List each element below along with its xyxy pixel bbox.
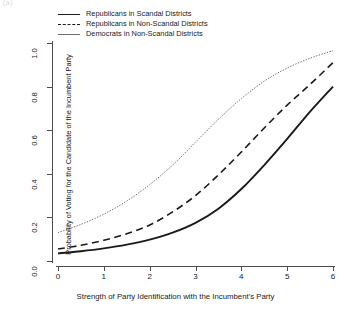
figure-panel: (a) Republicans in Scandal Districts Rep… [0, 0, 351, 317]
x-axis-tick-label: 6 [325, 272, 341, 281]
x-axis-tick [241, 266, 242, 271]
y-axis-tick [47, 174, 52, 175]
y-axis-tick-label: 1.0 [30, 43, 39, 65]
y-axis-tick [47, 217, 52, 218]
x-axis-title: Strength of Party Identification with th… [0, 292, 351, 301]
x-axis-tick [104, 266, 105, 271]
y-axis-tick-label: 0.6 [30, 130, 39, 152]
y-axis-tick-label: 0.4 [30, 173, 39, 195]
x-axis-tick-label: 3 [188, 272, 204, 281]
y-axis-tick [47, 130, 52, 131]
y-axis-tick-label: 0.0 [30, 261, 39, 283]
legend-item: Democrats in Non-Scandal Districts [58, 29, 208, 38]
y-axis-tick [47, 43, 52, 44]
legend-key-solid-line-icon [58, 9, 80, 18]
series-line [58, 51, 333, 233]
legend-item: Republicans in Non-Scandal Districts [58, 19, 208, 28]
plot-area [58, 43, 333, 261]
legend-key-dashed-line-icon [58, 19, 80, 28]
y-axis-tick-label: 0.8 [30, 86, 39, 108]
y-axis-line [52, 41, 53, 263]
curve-group [58, 43, 333, 261]
figure-corner-label: (a) [3, 0, 13, 6]
x-axis-tick-label: 1 [96, 272, 112, 281]
y-axis-tick-label: 0.2 [30, 217, 39, 239]
x-axis-tick-label: 4 [233, 272, 249, 281]
series-line [58, 63, 333, 249]
legend-label: Republicans in Non-Scandal Districts [86, 19, 208, 28]
legend-key-dotted-line-icon [58, 29, 80, 38]
y-axis-tick [47, 261, 52, 262]
x-axis-tick [196, 266, 197, 271]
x-axis-tick-label: 2 [142, 272, 158, 281]
y-axis-tick [47, 87, 52, 88]
chart-legend: Republicans in Scandal Districts Republi… [58, 9, 208, 39]
x-axis-tick [58, 266, 59, 271]
x-axis-tick [150, 266, 151, 271]
x-axis-tick [333, 266, 334, 271]
legend-label: Republicans in Scandal Districts [86, 9, 192, 18]
legend-item: Republicans in Scandal Districts [58, 9, 208, 18]
x-axis-tick-label: 5 [279, 272, 295, 281]
series-line [58, 87, 333, 254]
x-axis-tick [287, 266, 288, 271]
legend-label: Democrats in Non-Scandal Districts [86, 29, 203, 38]
x-axis-tick-label: 0 [50, 272, 66, 281]
y-axis-title: Probability of Voting for the Candidate … [64, 40, 73, 270]
